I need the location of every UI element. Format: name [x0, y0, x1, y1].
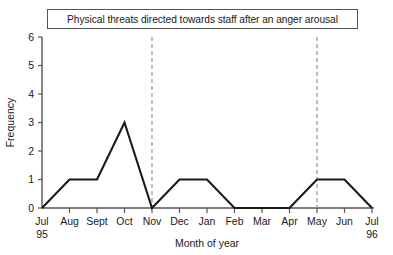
line-chart-plot: 0123456FrequencyJul95AugSeptOctNovDecJan…	[0, 0, 393, 255]
y-axis-title: Frequency	[4, 97, 16, 147]
x-axis-tick-label: May	[307, 215, 328, 227]
y-axis-tick-label: 1	[28, 173, 34, 185]
y-axis-tick-label: 4	[28, 88, 34, 100]
y-axis-tick-label: 6	[28, 31, 34, 43]
x-axis-tick-label: Jun	[336, 215, 353, 227]
y-axis-tick-label: 3	[28, 116, 34, 128]
y-axis-tick-label: 2	[28, 145, 34, 157]
x-axis-tick-label: Sept	[86, 215, 108, 227]
x-axis-tick-label: Oct	[116, 215, 132, 227]
x-axis-tick-label: Jul	[35, 215, 48, 227]
x-axis-tick-label: Dec	[170, 215, 189, 227]
y-axis-tick-label: 0	[28, 202, 34, 214]
y-axis-tick-label: 5	[28, 59, 34, 71]
x-axis-tick-label: Feb	[225, 215, 243, 227]
x-axis-tick-label: Jul	[365, 215, 378, 227]
chart-container: Physical threats directed towards staff …	[0, 0, 393, 255]
x-axis-title: Month of year	[175, 237, 240, 249]
x-axis-tick-label: Aug	[60, 215, 79, 227]
x-axis-tick-label: Mar	[253, 215, 272, 227]
x-axis-tick-label: Nov	[143, 215, 162, 227]
x-axis-tick-label: Apr	[281, 215, 298, 227]
x-axis-tick-label: Jan	[199, 215, 216, 227]
data-series-line	[42, 123, 372, 209]
x-axis-year-label: 95	[36, 228, 48, 240]
x-axis-year-label: 96	[366, 228, 378, 240]
